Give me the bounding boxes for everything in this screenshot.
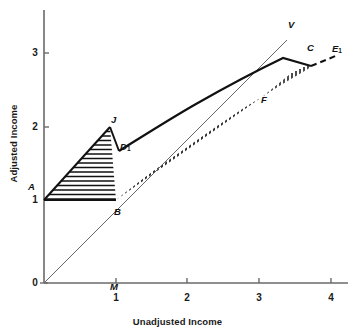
annotation-V: V: [288, 19, 294, 30]
annotation-E1: E1: [332, 43, 342, 54]
y-tick-label-1: 1: [26, 194, 44, 205]
x-tick-label-2: 2: [178, 292, 196, 303]
chart-figure: Unadjusted Income Adjusted Income 3 2 1 …: [0, 0, 355, 332]
annotation-B: B: [114, 206, 121, 217]
curve-JD1: [110, 127, 119, 151]
y-tick-label-2: 2: [26, 121, 44, 132]
x-tick-label-4: 4: [322, 292, 340, 303]
x-tick-label-1: 1: [107, 292, 125, 303]
annotation-D1: D1: [120, 141, 131, 152]
annotation-D1-subscript: 1: [127, 145, 131, 152]
annotation-A: A: [28, 181, 35, 192]
x-axis-title: Unadjusted Income: [0, 316, 355, 327]
annotation-C: C: [307, 42, 314, 53]
triangle-ABJ-horizontal-hatch: [40, 132, 122, 200]
annotation-J: J: [111, 114, 116, 125]
band-vertical-hatch: [118, 96, 258, 210]
curve-D1FC: [119, 58, 311, 151]
y-tick-label-3: 3: [26, 47, 44, 58]
annotation-D1-text: D: [120, 141, 127, 152]
dashed-segment-CE1: [311, 55, 338, 66]
annotation-E1-subscript: 1: [338, 47, 342, 54]
annotation-F: F: [261, 94, 267, 105]
plot-area: [0, 0, 355, 332]
band-diagonal-hatch: [264, 65, 308, 110]
y-tick-label-0: 0: [26, 277, 44, 288]
x-tick-label-3: 3: [250, 292, 268, 303]
annotation-M: M: [110, 281, 118, 292]
y-axis-title: Adjusted Income: [8, 79, 19, 209]
